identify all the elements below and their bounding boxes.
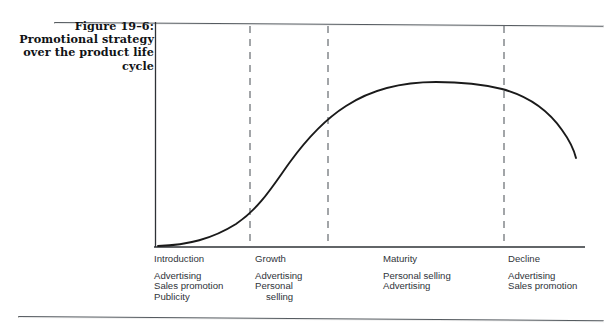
figure-page: Figure 19–6: Promotional strategy over t… (0, 0, 612, 329)
stage-name-decline: Decline (508, 254, 577, 264)
stage-column-decline: Decline Advertising Sales promotion (508, 254, 577, 292)
figure-caption: Figure 19–6: Promotional strategy over t… (10, 20, 154, 73)
life-cycle-curve (158, 82, 576, 246)
page-rule-bottom (18, 316, 604, 322)
stage-tool-growth-3: selling (255, 292, 302, 302)
stage-column-growth: Growth Advertising Personal selling (255, 254, 302, 302)
stage-name-introduction: Introduction (154, 254, 223, 264)
product-life-cycle-chart (150, 18, 590, 254)
stage-column-introduction: Introduction Advertising Sales promotion… (154, 254, 223, 302)
stage-tool-maturity-2: Advertising (383, 281, 451, 291)
caption-line-4: cycle (10, 60, 154, 73)
stage-column-maturity: Maturity Personal selling Advertising (383, 254, 451, 292)
stage-tool-introduction-3: Publicity (154, 292, 223, 302)
stage-tool-decline-2: Sales promotion (508, 281, 577, 291)
stage-name-maturity: Maturity (383, 254, 451, 264)
stage-name-growth: Growth (255, 254, 302, 264)
caption-line-3: over the product life (10, 46, 154, 59)
